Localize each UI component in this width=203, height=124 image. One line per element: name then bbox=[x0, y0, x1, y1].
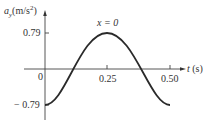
y-tick-label-neg079: − 0.79 bbox=[14, 100, 40, 110]
x-axis-label-var: t bbox=[187, 63, 190, 74]
y-axis-label-unit: (m/s bbox=[12, 5, 30, 16]
x-axis-arrow-icon bbox=[180, 67, 186, 71]
origin-label: 0 bbox=[38, 72, 43, 82]
x-axis-label: t (s) bbox=[187, 64, 203, 74]
chart: ay(m/s2) 0.79 0 − 0.79 0.25 0.50 t (s) x… bbox=[0, 0, 203, 124]
y-axis-label-close: ) bbox=[33, 5, 36, 16]
y-axis-label: ay(m/s2) bbox=[4, 5, 37, 19]
x-tick-label-050: 0.50 bbox=[161, 74, 179, 84]
y-axis-arrow-icon bbox=[43, 10, 47, 16]
y-tick-label-079: 0.79 bbox=[23, 28, 41, 38]
x-tick-label-025: 0.25 bbox=[99, 74, 117, 84]
position-annotation: x = 0 bbox=[97, 18, 118, 28]
x-axis-label-unit: (s) bbox=[192, 63, 203, 74]
